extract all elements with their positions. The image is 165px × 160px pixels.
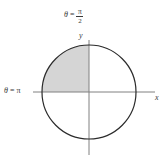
polar-circle-figure: y x θ = π θ = π 2 — [0, 0, 165, 160]
equals-symbol: = — [10, 87, 15, 95]
equals-symbol: = — [70, 11, 75, 19]
annotation-theta-equals-half-pi: θ = π 2 — [64, 11, 83, 28]
annotation-theta-equals-pi: θ = π — [4, 87, 21, 95]
shaded-quadrant-region — [42, 45, 89, 92]
x-axis-label: x — [155, 94, 159, 102]
fraction-numerator: π — [77, 8, 83, 16]
theta-symbol: θ — [4, 87, 8, 95]
theta-symbol: θ — [64, 11, 68, 19]
fraction-denominator: 2 — [77, 18, 83, 25]
y-axis-label: y — [79, 32, 83, 40]
pi-over-two-fraction: π 2 — [76, 8, 83, 25]
pi-symbol: π — [16, 87, 20, 95]
